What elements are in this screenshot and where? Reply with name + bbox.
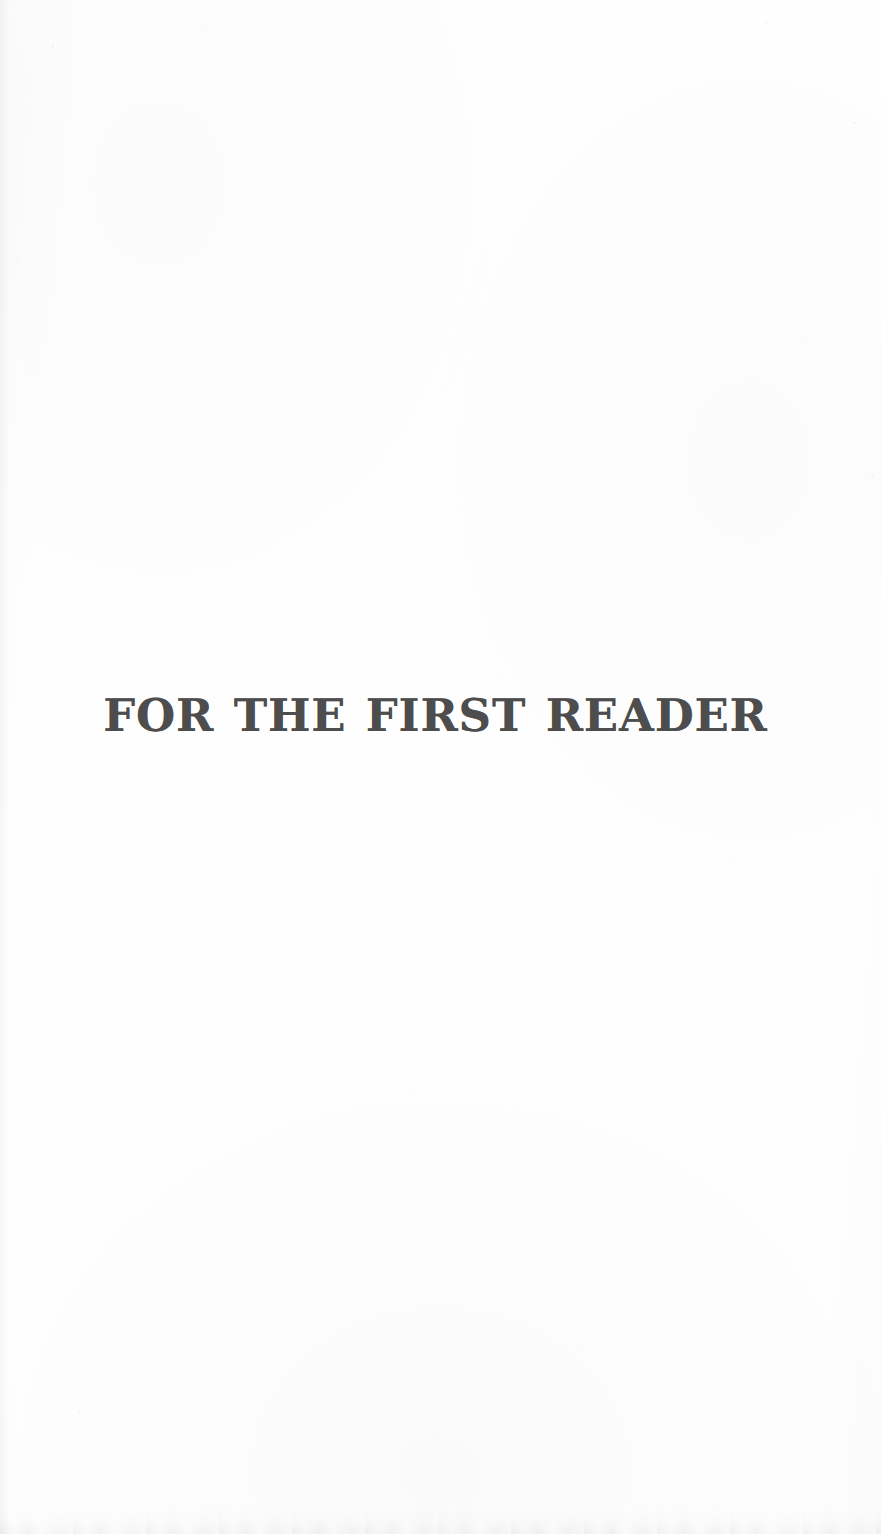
scanned-page: FOR THE FIRST READER [0,0,881,1534]
scan-speckle-noise [0,0,881,1534]
bottom-edge-smudge [0,1508,881,1534]
half-title-text: FOR THE FIRST READER [103,690,768,742]
paper-tint-overlay [0,0,881,1534]
half-title-block: FOR THE FIRST READER [0,690,881,742]
left-gutter-shadow [0,0,10,1534]
